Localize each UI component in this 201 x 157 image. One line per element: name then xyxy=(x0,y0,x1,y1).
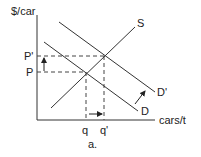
demand-shift-arrow-icon xyxy=(135,91,145,104)
demand-shifted-curve xyxy=(59,22,155,92)
supply-demand-diagram: $/car cars/t S D D' P' P q q' a. xyxy=(0,0,201,157)
price-initial-label: P xyxy=(26,66,33,78)
supply-label: S xyxy=(137,17,144,29)
price-new-label: P' xyxy=(24,50,33,62)
x-axis-label: cars/t xyxy=(159,114,186,126)
quantity-initial-label: q xyxy=(82,124,88,136)
demand-label: D xyxy=(141,105,149,117)
demand-shifted-label: D' xyxy=(157,86,167,98)
quantity-new-label: q' xyxy=(100,124,108,136)
supply-curve xyxy=(51,27,135,108)
y-axis-label: $/car xyxy=(11,5,36,17)
caption: a. xyxy=(88,138,97,150)
